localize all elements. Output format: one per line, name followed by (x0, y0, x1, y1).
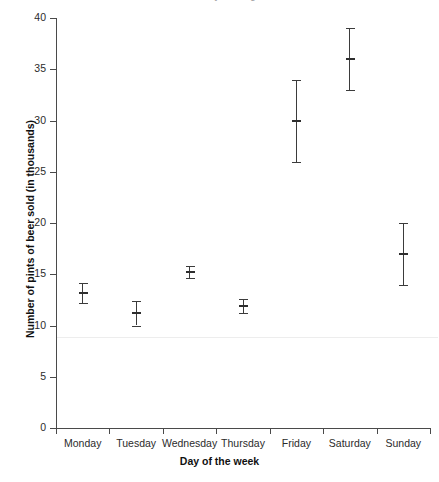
x-axis-tick (323, 428, 324, 434)
x-axis-tick-label: Wednesday (162, 437, 217, 449)
x-axis-tick (430, 428, 431, 434)
error-bar-mean-marker (239, 305, 248, 307)
error-bar-mean-marker (346, 58, 355, 60)
x-axis-spine (56, 428, 430, 429)
y-axis-title: Number of pints of beer sold (in thousan… (24, 19, 36, 439)
x-axis-tick-label: Thursday (221, 437, 265, 449)
y-axis-tick (50, 274, 56, 275)
x-axis-tick-label: Monday (64, 437, 101, 449)
chart-title: Weekday Drinking (0, 0, 439, 1)
x-axis-tick (109, 428, 110, 434)
error-bar-cap-upper (399, 223, 408, 224)
error-bar-cap-lower (239, 313, 248, 314)
x-axis-tick (270, 428, 271, 434)
error-bar-cap-upper (239, 299, 248, 300)
reference-line (57, 337, 438, 338)
error-bar-mean-marker (399, 253, 408, 255)
y-axis-tick (50, 18, 56, 19)
y-axis-tick (50, 223, 56, 224)
y-axis-tick (50, 326, 56, 327)
error-bar-mean-marker (186, 271, 195, 273)
x-axis-tick-label: Sunday (385, 437, 421, 449)
y-axis-tick (50, 377, 56, 378)
x-axis-tick-label: Saturday (329, 437, 371, 449)
y-axis-tick (50, 172, 56, 173)
y-axis-tick (50, 69, 56, 70)
error-bar-cap-upper (132, 301, 141, 302)
error-bar-cap-lower (292, 162, 301, 163)
x-axis-tick (216, 428, 217, 434)
x-axis-tick (377, 428, 378, 434)
error-bar-cap-lower (399, 285, 408, 286)
error-bar-cap-upper (346, 28, 355, 29)
error-bar-cap-lower (132, 326, 141, 327)
error-bar-cap-upper (292, 80, 301, 81)
x-axis-tick (163, 428, 164, 434)
x-axis-title: Day of the week (0, 455, 439, 467)
error-bar-mean-marker (292, 120, 301, 122)
error-bar-cap-lower (346, 90, 355, 91)
error-bar-mean-marker (132, 312, 141, 314)
error-bar-cap-lower (79, 303, 88, 304)
y-axis-spine (56, 18, 57, 429)
error-bar-chart: Weekday Drinking 0510152025303540 Monday… (0, 0, 439, 482)
error-bar-cap-upper (186, 266, 195, 267)
x-axis-tick-label: Friday (282, 437, 311, 449)
y-axis-tick (50, 121, 56, 122)
error-bar-cap-lower (186, 278, 195, 279)
x-axis-tick-label: Tuesday (116, 437, 156, 449)
x-axis-tick (56, 428, 57, 434)
error-bar-mean-marker (79, 292, 88, 294)
error-bar-cap-upper (79, 283, 88, 284)
